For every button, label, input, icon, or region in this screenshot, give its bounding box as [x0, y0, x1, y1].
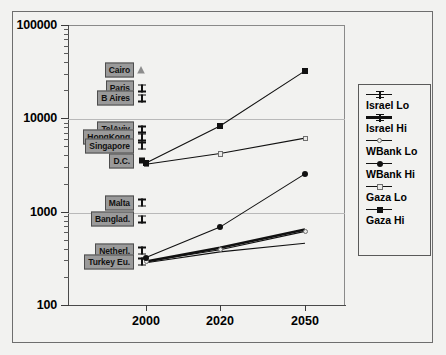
y-tick-minor: [64, 46, 69, 47]
legend-marker: [375, 136, 384, 145]
data-point-wbank-hi: [301, 169, 310, 178]
x-tick-label: 2000: [132, 314, 160, 328]
legend-item-israel-lo[interactable]: Israel Lo: [359, 90, 430, 112]
series-line-wbank-hi: [146, 174, 305, 258]
legend-marker: [375, 159, 384, 168]
legend-item-wbank-lo[interactable]: WBank Lo: [359, 136, 430, 158]
data-point-wbank-lo: [301, 227, 310, 236]
x-tick-label: 2020: [206, 314, 234, 328]
legend-marker: [375, 90, 384, 99]
legend-label: Gaza Hi: [366, 214, 405, 227]
reference-label-malta: Malta: [0, 195, 146, 210]
y-tick-minor: [64, 184, 69, 185]
data-point-gaza-hi: [301, 66, 310, 75]
x-tick-label: 2050: [291, 314, 319, 328]
data-point-gaza-hi: [216, 121, 225, 130]
x-tick: [146, 305, 147, 311]
data-point-wbank-hi: [216, 223, 225, 232]
legend-label: WBank Lo: [366, 145, 417, 158]
y-tick-minor: [64, 232, 69, 233]
legend-label: Israel Lo: [366, 99, 409, 112]
y-tick-minor: [64, 29, 69, 30]
reference-label-marker: [137, 198, 146, 207]
data-point-wbank-lo: [216, 245, 225, 254]
y-tick-label: 100: [0, 298, 57, 312]
reference-label-cairo: Cairo: [0, 62, 146, 77]
reference-label-text: Cairo: [105, 62, 134, 77]
legend-marker: [375, 182, 384, 191]
reference-label-marker: [137, 65, 146, 74]
y-tick-major: [61, 118, 69, 119]
legend-marker: [375, 113, 384, 122]
reference-label-text: Turkey Eu.: [84, 254, 134, 269]
legend: Israel LoIsrael HiWBank LoWBank HiGaza L…: [358, 84, 431, 256]
x-tick: [305, 305, 306, 311]
x-tick: [220, 305, 221, 311]
reference-label-b-aires: B Aires: [0, 91, 146, 106]
legend-label: Gaza Lo: [366, 191, 407, 204]
legend-swatch: [366, 90, 392, 99]
y-tick-minor: [64, 277, 69, 278]
y-tick-minor: [64, 34, 69, 35]
legend-item-israel-hi[interactable]: Israel Hi: [359, 113, 430, 135]
reference-label-d-c: D.C.: [0, 153, 146, 168]
legend-swatch: [366, 113, 392, 122]
reference-label-marker: [137, 257, 146, 266]
reference-label-singapore: Singapore: [0, 138, 146, 153]
legend-item-gaza-hi[interactable]: Gaza Hi: [359, 205, 430, 227]
reference-label-turkey-eu: Turkey Eu.: [0, 254, 146, 269]
series-line-gaza-hi: [146, 71, 305, 163]
reference-label-marker: [137, 94, 146, 103]
legend-label: WBank Hi: [366, 168, 415, 181]
data-point-gaza-lo: [301, 134, 310, 143]
reference-label-text: Banglad.: [91, 212, 134, 227]
reference-label-text: Malta: [105, 195, 134, 210]
reference-label-marker: [137, 141, 146, 150]
legend-swatch: [366, 159, 392, 168]
reference-label-text: D.C.: [109, 153, 134, 168]
legend-swatch: [366, 205, 392, 214]
reference-label-marker: [137, 215, 146, 224]
y-tick-label: 100000: [0, 18, 57, 32]
legend-label: Israel Hi: [366, 122, 407, 135]
reference-label-text: B Aires: [97, 91, 134, 106]
data-point-gaza-lo: [216, 149, 225, 158]
legend-marker: [375, 205, 384, 214]
y-tick-major: [61, 25, 69, 26]
legend-item-wbank-hi[interactable]: WBank Hi: [359, 159, 430, 181]
y-tick-minor: [64, 53, 69, 54]
legend-swatch: [366, 136, 392, 145]
chart-root: 100100010000100000 200020202050 CairoPar…: [0, 0, 446, 355]
y-tick-minor: [64, 240, 69, 241]
reference-label-marker: [137, 156, 146, 165]
reference-label-text: Singapore: [85, 138, 134, 153]
reference-label-banglad: Banglad.: [0, 212, 146, 227]
y-tick-major: [61, 305, 69, 306]
legend-item-gaza-lo[interactable]: Gaza Lo: [359, 182, 430, 204]
y-tick-minor: [64, 39, 69, 40]
legend-swatch: [366, 182, 392, 191]
